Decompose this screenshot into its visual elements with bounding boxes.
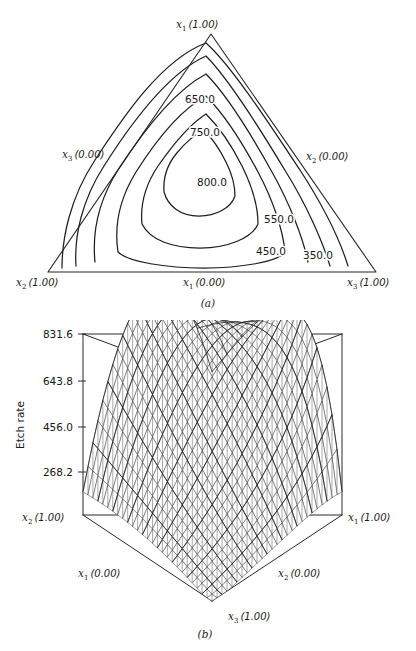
contour-800 bbox=[164, 130, 235, 216]
z-axis-title: Etch rate bbox=[14, 401, 26, 449]
surface-left-corner-label: x2(1.00) bbox=[22, 511, 64, 526]
panel-a-caption: (a) bbox=[201, 297, 215, 309]
panel-b-surface-plot: 831.6 643.8 456.0 268.2 Etch rate x2(1.0… bbox=[0, 320, 416, 651]
panel-b-caption: (b) bbox=[198, 628, 213, 640]
contour-450 bbox=[76, 56, 330, 266]
contour-label-450: 450.0 bbox=[256, 245, 286, 257]
surface-front-corner-label: x3(1.00) bbox=[228, 610, 270, 625]
contour-label-550: 550.0 bbox=[264, 213, 294, 225]
ternary-right-edge-label: x2(0.00) bbox=[306, 150, 348, 165]
surface-plot-svg: 831.6 643.8 456.0 268.2 Etch rate x2(1.0… bbox=[0, 320, 416, 651]
z-tick-label-831: 831.6 bbox=[43, 328, 73, 340]
contour-label-350: 350.0 bbox=[303, 249, 333, 261]
contour-label-750: 750.0 bbox=[190, 126, 220, 138]
surface-right-corner-label: x1(1.00) bbox=[348, 511, 390, 526]
z-tick-label-268: 268.2 bbox=[43, 466, 73, 478]
ternary-contour-svg: x1(1.00) x3(0.00) x2(0.00) x2(1.00) x1(0… bbox=[0, 0, 416, 320]
z-tick-label-643: 643.8 bbox=[43, 375, 73, 387]
z-axis-ticks bbox=[78, 334, 86, 472]
surface-wireframe-mesh bbox=[83, 320, 342, 601]
figure-root: x1(1.00) x3(0.00) x2(0.00) x2(1.00) x1(0… bbox=[0, 0, 416, 651]
contour-label-650: 650.0 bbox=[185, 93, 215, 105]
contour-label-800: 800.0 bbox=[197, 176, 227, 188]
surface-front-right-label: x2(0.00) bbox=[278, 567, 320, 582]
ternary-bottom-right-label: x3(1.00) bbox=[347, 276, 389, 291]
panel-a-ternary-contour: x1(1.00) x3(0.00) x2(0.00) x2(1.00) x1(0… bbox=[0, 0, 416, 320]
ternary-bottom-left-label: x2(1.00) bbox=[16, 276, 58, 291]
ternary-apex-label: x1(1.00) bbox=[176, 18, 218, 33]
surface-front-left-label: x1(0.00) bbox=[78, 567, 120, 582]
contour-label-group: 650.0 750.0 800.0 550.0 450.0 350.0 bbox=[185, 93, 333, 261]
z-tick-label-456: 456.0 bbox=[43, 421, 73, 433]
ternary-bottom-edge-label: x1(0.00) bbox=[183, 276, 225, 291]
ternary-left-edge-label: x3(0.00) bbox=[62, 148, 104, 163]
